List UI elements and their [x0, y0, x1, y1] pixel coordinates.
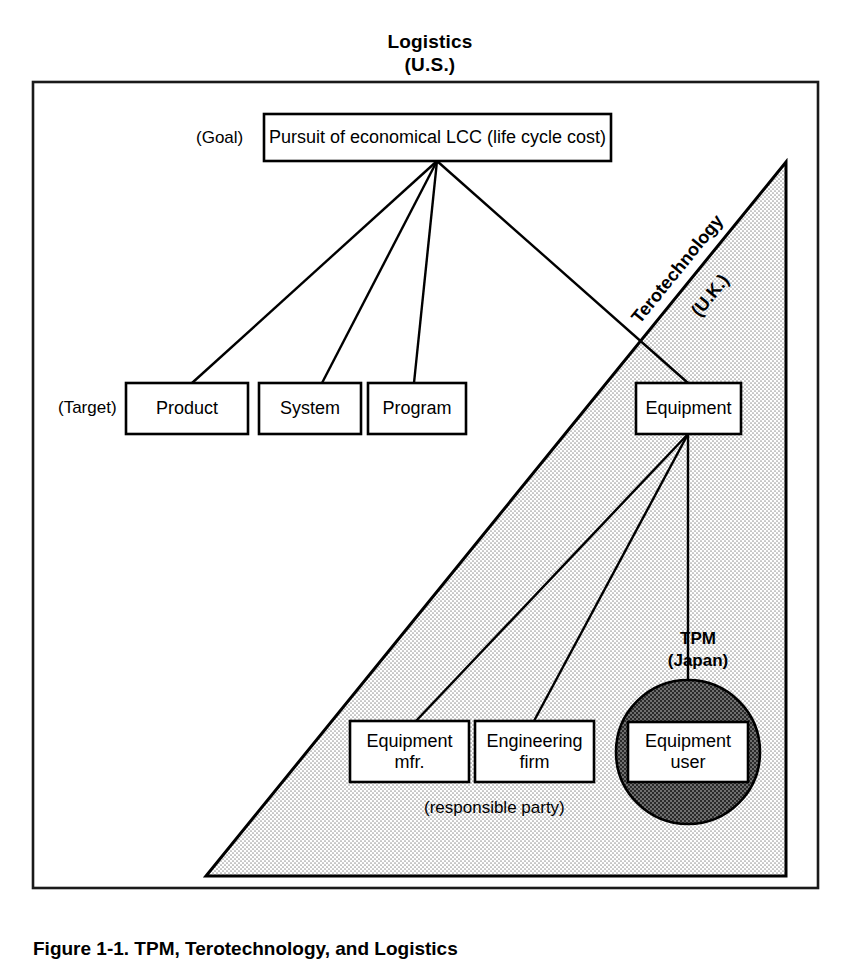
figure-root: Logistics (U.S.) [0, 0, 857, 959]
tpm-label-line1: TPM [628, 628, 768, 650]
equipment-box-label: Equipment [636, 383, 741, 434]
target-row-label: (Target) [58, 398, 117, 418]
equipment-user-box-label: Equipment user [628, 722, 748, 782]
tpm-region-label: TPM (Japan) [628, 628, 768, 672]
product-box-label: Product [126, 383, 248, 434]
program-box-label: Program [368, 383, 466, 434]
system-box-label: System [259, 383, 361, 434]
engineering-firm-box-label: Engineering firm [475, 721, 594, 782]
goal-box-label: Pursuit of economical LCC (life cycle co… [264, 114, 611, 161]
goal-row-label: (Goal) [196, 128, 243, 148]
equipment-mfr-box-label: Equipment mfr. [350, 721, 469, 782]
tpm-label-line2: (Japan) [628, 650, 768, 672]
figure-caption: Figure 1-1. TPM, Terotechnology, and Log… [33, 938, 458, 959]
responsible-party-note: (responsible party) [424, 798, 565, 818]
